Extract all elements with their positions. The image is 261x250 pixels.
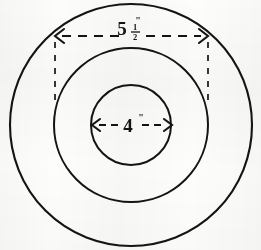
- outer-dimension-fraction-denominator: 2: [133, 32, 137, 42]
- inner-dimension-group: 4 ": [92, 112, 172, 136]
- figure-canvas: 5 " 1 2 4 ": [0, 0, 261, 250]
- outer-dimension-group: 5 " 1 2: [55, 15, 208, 104]
- inner-dimension-value: 4: [123, 115, 133, 136]
- outer-dimension-value: 5: [117, 18, 127, 39]
- inner-dimension-arrowhead-left: [92, 119, 100, 131]
- concentric-circles-diagram: 5 " 1 2 4 ": [0, 0, 261, 250]
- inner-dimension-inch-mark: ": [138, 112, 144, 123]
- outer-dimension-fraction-numerator: 1: [133, 22, 137, 32]
